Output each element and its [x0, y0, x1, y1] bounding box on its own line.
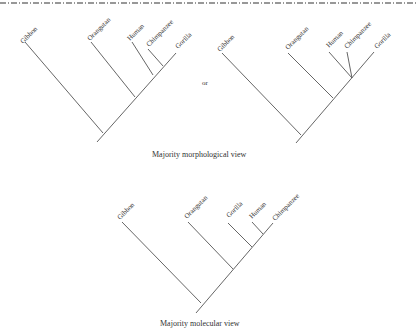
molecular-caption: Majority molecular view: [160, 319, 240, 328]
branch-gibbon: [222, 53, 301, 135]
or-label: or: [202, 79, 209, 87]
branch-chimpanzee: [347, 52, 352, 78]
branch-human: [329, 52, 352, 78]
taxon-label: Gorilla: [174, 30, 194, 50]
branch-gorilla: [228, 223, 252, 247]
taxon-label: Chimpanzee: [271, 192, 301, 222]
taxon-label: Human: [248, 200, 269, 221]
taxon-label: Orangutan: [183, 194, 210, 221]
taxon-label: Gibbon: [19, 25, 40, 46]
taxon-label: Chimpanzee: [145, 18, 175, 48]
taxon-label: Orangutan: [86, 16, 113, 43]
taxon-label: Gorilla: [225, 199, 245, 219]
taxon-label: Gorilla: [373, 30, 393, 50]
tree-morphological-a: Gibbon Orangutan Human Chimpanzee Gorill…: [19, 16, 194, 142]
branch-orangutan: [91, 42, 135, 97]
branch-human: [252, 222, 263, 234]
branch-orangutan: [188, 222, 233, 269]
branch-spine: [196, 223, 273, 313]
tree-molecular: Gibbon Orangutan Gorilla Human Chimpanze…: [116, 192, 301, 313]
taxon-label: Orangutan: [284, 25, 311, 52]
phylogeny-figure: Gibbon Orangutan Human Chimpanzee Gorill…: [0, 0, 418, 334]
branch-orangutan: [288, 53, 333, 98]
taxon-label: Chimpanzee: [343, 20, 373, 50]
taxon-label: Gibbon: [116, 201, 137, 222]
taxon-label: Human: [325, 29, 346, 50]
branch-chimpanzee: [148, 49, 163, 66]
tree-morphological-b: Gibbon Orangutan Human Chimpanzee Gorill…: [216, 20, 393, 143]
branch-gibbon: [25, 42, 103, 133]
morphological-caption: Majority morphological view: [152, 150, 246, 159]
branch-spine: [296, 52, 374, 143]
taxon-label: Gibbon: [216, 33, 237, 54]
branch-spine: [97, 53, 176, 142]
branch-gibbon: [122, 222, 201, 303]
taxon-label: Human: [126, 22, 147, 43]
